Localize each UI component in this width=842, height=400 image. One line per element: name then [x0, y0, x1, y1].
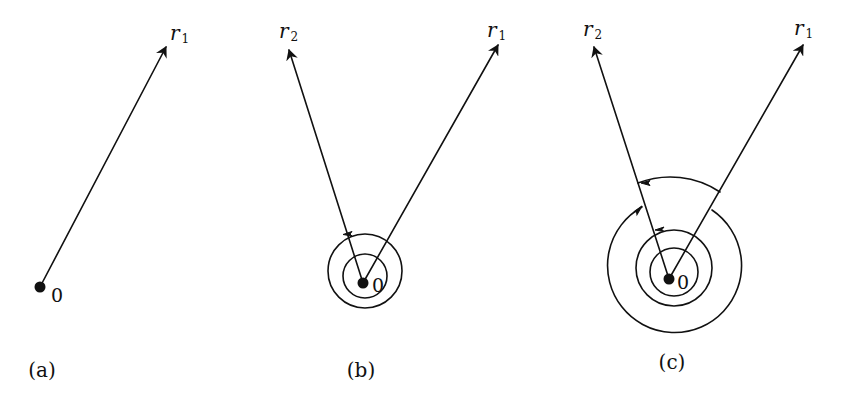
origin-label: 0 — [677, 271, 689, 293]
vector-r2-arrow — [289, 50, 363, 283]
vector-r1-arrow — [40, 47, 166, 287]
winding-loop-outer — [328, 234, 402, 308]
origin-point — [664, 274, 675, 285]
direction-arrow-icon — [655, 227, 664, 232]
caption-c: (c) — [659, 350, 686, 374]
winding-loop-middle — [636, 230, 712, 306]
panel-a: r1 0 (a) — [28, 21, 189, 382]
vector-r1-arrow — [363, 45, 498, 283]
label-r1: r1 — [170, 21, 189, 46]
label-r1: r1 — [794, 16, 813, 41]
origin-label: 0 — [372, 274, 384, 296]
origin-point — [358, 278, 369, 289]
winding-loop-inner — [650, 248, 698, 296]
label-r2: r2 — [279, 19, 298, 44]
caption-a: (a) — [28, 358, 56, 382]
vector-r2-arrow — [594, 47, 669, 279]
panel-c: r2 r1 0 (c) — [583, 16, 813, 374]
winding-paths-diagram: r1 0 (a) r2 r1 0 (b) r2 r1 0 ( — [0, 0, 842, 400]
origin-label: 0 — [51, 284, 63, 306]
label-r1: r1 — [487, 18, 506, 43]
panel-b: r2 r1 0 (b) — [279, 18, 506, 382]
caption-b: (b) — [347, 358, 375, 382]
origin-point — [35, 282, 46, 293]
direction-arrow-icon — [634, 206, 642, 215]
winding-arc-top — [638, 177, 720, 192]
vector-r1-arrow — [669, 45, 803, 279]
label-r2: r2 — [583, 17, 602, 42]
